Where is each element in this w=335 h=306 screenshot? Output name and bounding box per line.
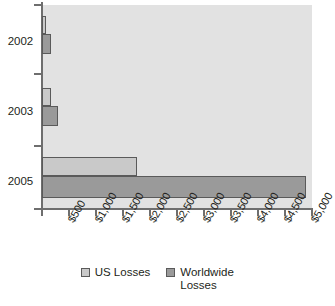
legend-label-us-losses: US Losses xyxy=(95,266,151,279)
y-axis-tick xyxy=(34,145,42,147)
y-axis-label-2002: 2002 xyxy=(0,35,33,47)
y-axis-label-2003: 2003 xyxy=(0,105,33,117)
x-axis-tick xyxy=(41,209,43,216)
x-axis-label-5000: $5,000 xyxy=(309,191,335,225)
legend-item-worldwide-losses: Worldwide Losses xyxy=(166,266,246,292)
legend-label-worldwide-losses: Worldwide Losses xyxy=(180,266,246,292)
bar-us-losses-2003 xyxy=(42,88,51,106)
y-axis-label-2005: 2005 xyxy=(0,175,33,187)
bar-worldwide-losses-2003 xyxy=(42,106,58,126)
legend-item-us-losses: US Losses xyxy=(81,266,151,279)
bar-worldwide-losses-2002 xyxy=(42,34,51,54)
y-axis-tick xyxy=(34,73,42,75)
legend-swatch-us-losses-icon xyxy=(81,268,90,277)
bar-us-losses-2005 xyxy=(42,157,137,176)
bar-us-losses-2002 xyxy=(42,16,46,34)
legend-swatch-worldwide-losses-icon xyxy=(166,268,175,277)
y-axis-tick xyxy=(34,4,42,6)
chart-legend: US Losses Worldwide Losses xyxy=(0,266,327,292)
